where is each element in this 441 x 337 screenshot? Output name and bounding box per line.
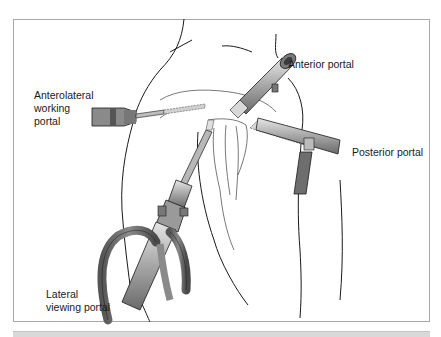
label-anterior-portal: Anterior portal	[288, 58, 354, 71]
label-posterior-portal: Posterior portal	[352, 146, 423, 159]
label-lateral-viewing-portal: Lateral viewing portal	[46, 288, 110, 314]
posterior-portal-instrument	[250, 118, 340, 194]
anterolateral-working-portal-instrument	[92, 104, 205, 126]
label-anterolateral-working-portal: Anterolateral working portal	[34, 89, 94, 128]
bottom-bar	[13, 331, 430, 337]
